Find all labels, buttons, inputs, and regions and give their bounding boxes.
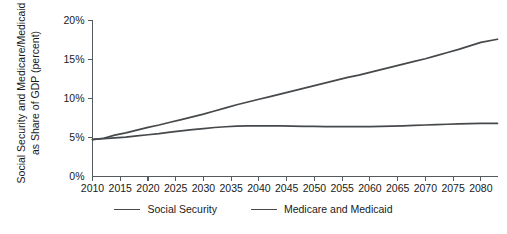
x-tick-label: 2030 [192, 182, 216, 194]
x-tick-label: 2060 [358, 182, 382, 194]
x-tick-label: 2045 [275, 182, 299, 194]
x-tick-label: 2055 [330, 182, 354, 194]
x-tick-label: 2070 [414, 182, 438, 194]
x-tick-label: 2075 [441, 182, 465, 194]
x-tick-label: 2065 [386, 182, 410, 194]
y-tick-label: 20% [63, 14, 84, 26]
x-tick-label: 2035 [220, 182, 244, 194]
legend-label: Social Security [147, 203, 216, 215]
legend-line-icon [114, 209, 140, 210]
legend-label: Medicare and Medicaid [284, 203, 393, 215]
y-axis: 0%5%10%15%20% [63, 14, 92, 182]
x-tick-label: 2015 [109, 182, 133, 194]
plot-area: 0%5%10%15%20% 20102015202020252030203520… [0, 0, 507, 203]
y-tick-label: 10% [63, 92, 84, 104]
legend-line-icon [251, 209, 277, 210]
y-tick-label: 0% [69, 170, 84, 182]
legend-item-social-security: Social Security [114, 203, 216, 215]
data-series-group [93, 39, 498, 139]
y-tick-label: 5% [69, 131, 84, 143]
x-axis: 2010201520202025203020352040204520502055… [81, 177, 498, 194]
x-tick-label: 2010 [81, 182, 105, 194]
x-tick-label: 2020 [136, 182, 160, 194]
x-tick-label: 2080 [469, 182, 493, 194]
chart-container: Social Security and Medicare/Medicaid as… [0, 0, 507, 234]
legend-item-medicare-and-medicaid: Medicare and Medicaid [251, 203, 393, 215]
x-tick-label: 2050 [303, 182, 327, 194]
chart-legend: Social Security Medicare and Medicaid [0, 203, 507, 215]
x-tick-label: 2040 [247, 182, 271, 194]
x-tick-label: 2025 [164, 182, 188, 194]
y-tick-label: 15% [63, 53, 84, 65]
